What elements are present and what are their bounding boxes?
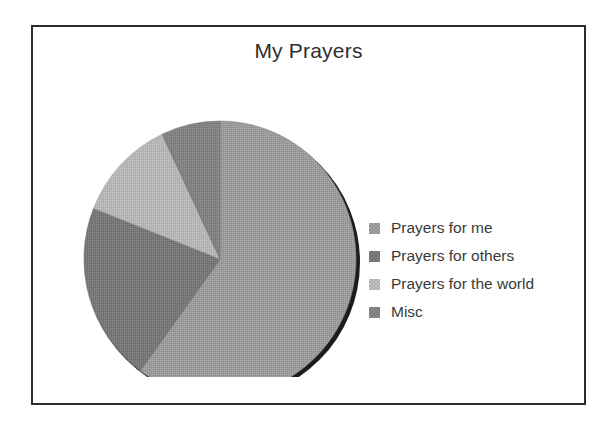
legend-label: Prayers for others [391,247,514,265]
chart-frame: My Prayers [31,25,586,405]
legend-label: Prayers for me [391,219,493,237]
legend-label: Misc [391,303,423,321]
legend-item-prayers-for-me[interactable]: Prayers for me [369,215,584,241]
legend-swatch-icon [369,251,380,262]
legend-item-prayers-for-the-world[interactable]: Prayers for the world [369,271,584,297]
legend-item-misc[interactable]: Misc [369,299,584,325]
legend-item-prayers-for-others[interactable]: Prayers for others [369,243,584,269]
legend-swatch-icon [369,307,380,318]
legend-swatch-icon [369,223,380,234]
pie-chart [33,57,373,377]
legend-label: Prayers for the world [391,275,534,293]
chart-legend: Prayers for me Prayers for others Prayer… [369,215,584,327]
pie-svg [33,57,373,377]
legend-swatch-icon [369,279,380,290]
